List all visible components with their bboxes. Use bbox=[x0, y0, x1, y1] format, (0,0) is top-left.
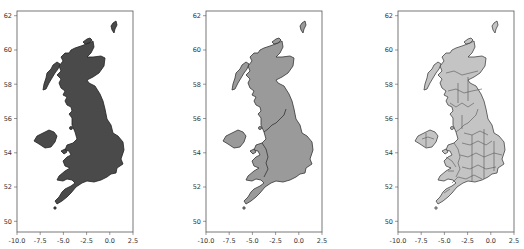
x-tick-label: -2.5 bbox=[80, 237, 93, 245]
x-tick-label: -5.0 bbox=[438, 237, 451, 245]
x-tick-label: -10.0 bbox=[9, 237, 26, 245]
y-tick-label: 52 bbox=[385, 183, 393, 191]
x-tick-label: 2.5 bbox=[128, 237, 138, 245]
x-axis: -10.0 -7.5 -5.0 -2.5 0.0 2.5 bbox=[198, 232, 328, 245]
map-panel-regions: 62 60 58 56 54 52 50 -10.0 -7.5 -5.0 -2.… bbox=[381, 0, 518, 249]
uk-shape bbox=[34, 21, 124, 209]
y-axis: 62 60 58 56 54 52 50 bbox=[385, 12, 398, 226]
y-tick-label: 60 bbox=[385, 46, 393, 54]
x-tick-label: 0.0 bbox=[105, 237, 115, 245]
x-axis: -10.0 -7.5 -5.0 -2.5 0.0 2.5 bbox=[390, 232, 520, 245]
map-plot: 62 60 58 56 54 52 50 -10.0 -7.5 -5.0 -2.… bbox=[381, 0, 524, 249]
y-tick-label: 60 bbox=[4, 46, 12, 54]
y-tick-label: 56 bbox=[385, 115, 393, 123]
x-tick-label: -10.0 bbox=[198, 237, 215, 245]
y-tick-label: 62 bbox=[193, 12, 201, 20]
y-tick-label: 62 bbox=[4, 12, 12, 20]
map-plot: 62 60 58 56 54 52 50 -10.0 -7.5 -5.0 -2.… bbox=[0, 0, 180, 249]
y-tick-label: 56 bbox=[4, 115, 12, 123]
y-tick-label: 54 bbox=[4, 149, 12, 157]
map-panel-country-outline: 62 60 58 56 54 52 50 -10.0 -7.5 -5.0 -2.… bbox=[0, 0, 180, 249]
x-tick-label: -5.0 bbox=[246, 237, 259, 245]
uk-shape bbox=[415, 21, 505, 209]
y-tick-label: 56 bbox=[193, 115, 201, 123]
uk-shape bbox=[223, 21, 313, 209]
x-tick-label: 0.0 bbox=[294, 237, 304, 245]
y-axis: 62 60 58 56 54 52 50 bbox=[4, 12, 17, 226]
x-tick-label: -7.5 bbox=[34, 237, 47, 245]
x-tick-label: -7.5 bbox=[223, 237, 236, 245]
map-plot: 62 60 58 56 54 52 50 -10.0 -7.5 -5.0 -2.… bbox=[189, 0, 339, 249]
y-tick-label: 50 bbox=[4, 218, 12, 226]
x-tick-label: -2.5 bbox=[461, 237, 474, 245]
y-tick-label: 62 bbox=[385, 12, 393, 20]
y-tick-label: 54 bbox=[193, 149, 201, 157]
y-tick-label: 58 bbox=[385, 81, 393, 89]
x-tick-label: 0.0 bbox=[486, 237, 496, 245]
x-axis: -10.0 -7.5 -5.0 -2.5 0.0 2.5 bbox=[9, 232, 139, 245]
y-tick-label: 50 bbox=[385, 218, 393, 226]
map-panel-countries: 62 60 58 56 54 52 50 -10.0 -7.5 -5.0 -2.… bbox=[189, 0, 339, 249]
x-tick-label: 2.5 bbox=[509, 237, 519, 245]
y-tick-label: 60 bbox=[193, 46, 201, 54]
x-tick-label: -5.0 bbox=[57, 237, 70, 245]
x-tick-label: -7.5 bbox=[415, 237, 428, 245]
x-tick-label: -10.0 bbox=[390, 237, 407, 245]
y-tick-label: 58 bbox=[193, 81, 201, 89]
y-axis: 62 60 58 56 54 52 50 bbox=[193, 12, 206, 226]
y-tick-label: 52 bbox=[193, 183, 201, 191]
y-tick-label: 54 bbox=[385, 149, 393, 157]
y-tick-label: 58 bbox=[4, 81, 12, 89]
x-tick-label: -2.5 bbox=[269, 237, 282, 245]
y-tick-label: 50 bbox=[193, 218, 201, 226]
y-tick-label: 52 bbox=[4, 183, 12, 191]
x-tick-label: 2.5 bbox=[317, 237, 327, 245]
